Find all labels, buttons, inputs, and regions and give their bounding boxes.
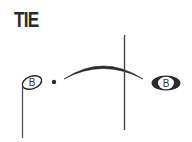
left-half-note: B	[20, 73, 56, 138]
tie-notation-diagram: B B	[0, 0, 192, 142]
left-note-letter: B	[29, 77, 36, 88]
right-whole-note: B	[152, 76, 181, 91]
augmentation-dot-icon	[52, 80, 56, 84]
right-note-letter: B	[163, 78, 170, 89]
tie-arc-icon	[64, 66, 143, 79]
